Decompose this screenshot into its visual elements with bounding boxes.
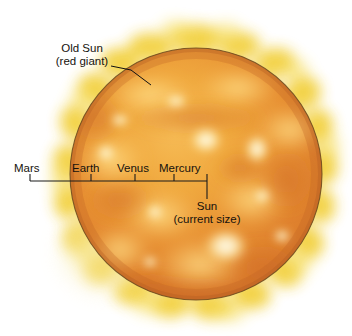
scale-label-mars: Mars [14,162,40,175]
scale-label-mercury: Mercury [159,162,201,175]
figure-canvas: Old Sun (red giant) Sun (current size) M… [0,0,352,336]
current-sun-label-line1: Sun [148,200,266,213]
old-sun-annotation: Old Sun (red giant) [37,42,127,68]
old-sun-label-line2: (red giant) [37,55,127,68]
old-sun-label-line1: Old Sun [37,42,127,55]
current-sun-annotation: Sun (current size) [148,200,266,226]
scale-label-earth: Earth [72,162,100,175]
scale-label-venus: Venus [117,162,149,175]
current-sun-label-line2: (current size) [148,213,266,226]
